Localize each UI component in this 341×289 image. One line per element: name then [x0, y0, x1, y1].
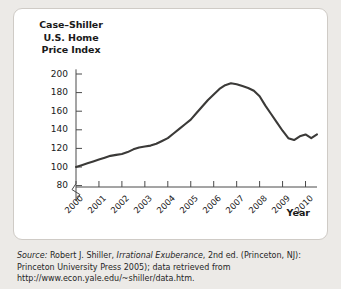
data-line-case-shiller: [76, 83, 317, 167]
y-tick-label-120: 120: [42, 144, 68, 153]
x-axis-title: Year: [286, 207, 310, 218]
y-tick-label-140: 140: [42, 125, 68, 134]
source-caption: Source: Robert J. Shiller, Irrational Ex…: [17, 250, 327, 285]
source-book-title: Irrational Exuberance: [117, 251, 203, 260]
y-tick-label-100: 100: [42, 163, 68, 172]
source-label: Source:: [17, 251, 47, 260]
chart-panel: Case–Shiller U.S. Home Price Index 80100…: [13, 8, 328, 240]
y-tick-label-200: 200: [42, 70, 68, 79]
figure-root: Case–Shiller U.S. Home Price Index 80100…: [0, 0, 341, 289]
y-tick-label-160: 160: [42, 107, 68, 116]
y-tick-label-80: 80: [42, 181, 68, 190]
source-text-1: Robert J. Shiller,: [47, 251, 116, 260]
y-tick-label-180: 180: [42, 88, 68, 97]
